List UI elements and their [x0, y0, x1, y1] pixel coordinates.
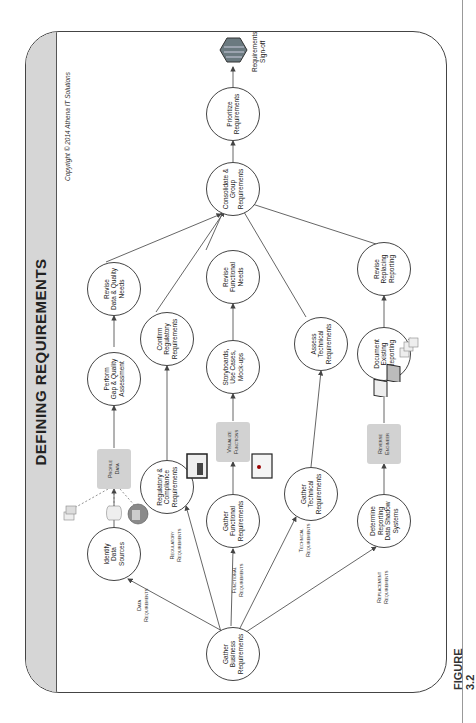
node-prioritize: Prioritize Requirements: [206, 87, 260, 141]
box-visualize-functions: Visualize Functions: [216, 422, 250, 462]
edge-label-technical: Technical Requirements: [298, 524, 312, 557]
screen-mockup-icon: [186, 453, 208, 479]
database-icon: [106, 504, 122, 522]
node-gather-technical: Gather Technical Requirements: [284, 467, 338, 521]
node-consolidate: Consolidate & Group Requirements: [206, 162, 260, 216]
node-storyboards: Storyboards, Use Cases, Mock-ups: [206, 340, 260, 394]
person-globe-icon: [126, 502, 150, 526]
books-stack-icon: [218, 35, 248, 65]
spreadsheet-icon: [385, 362, 403, 382]
box-profile-data: Profile Data: [97, 449, 131, 489]
figure-label: FIGURE 3.2: [452, 648, 476, 690]
node-revise-replacing: Revise Replacing Reporting: [357, 242, 411, 296]
node-determine-reporting: Determine Reporting Data Shadow Systems: [357, 494, 411, 548]
signoff-label: Requirements Sign-off: [251, 32, 266, 72]
node-gather-business: Gather Business Requirements: [206, 627, 260, 681]
box-reverse-engineer: Reverse Engineer: [367, 424, 401, 464]
node-perform-gap: Perform Gap & Quality Assessment: [87, 352, 141, 406]
node-identify-data: Identify Data Sources: [87, 527, 141, 581]
edge-label-data: Data Requirements: [136, 589, 150, 622]
stacked-reports-icon: [398, 337, 420, 359]
edge-label-functional: Functional Requirements: [231, 564, 245, 597]
wireframe-icon: [251, 453, 273, 479]
edge-label-replacement: Replacement Requirements: [376, 571, 390, 604]
node-revise-data: Revise Data & Quality Needs: [87, 262, 141, 316]
node-confirm-regulatory: Confirm Regulatory Requirements: [140, 312, 194, 366]
node-gather-functional: Gather Functional Requirements: [206, 494, 260, 548]
node-assess-technical: Assess Technical Requirements: [294, 317, 348, 371]
figure-rule: [462, 0, 463, 723]
edge-label-regulatory: Regulatory Requirements: [169, 529, 183, 562]
node-revise-functional: Revise Functional Needs: [206, 250, 260, 304]
documents-icon: [62, 502, 78, 522]
diagram-frame: DEFINING REQUIREMENTS Copyright © 2014 A…: [25, 31, 447, 693]
